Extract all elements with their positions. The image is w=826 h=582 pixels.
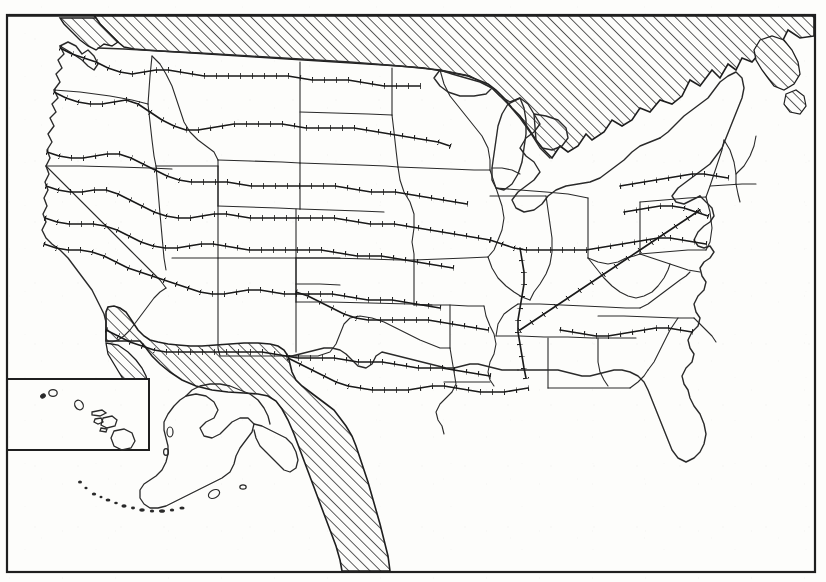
aleutian-dot (179, 506, 184, 509)
map-page (0, 0, 826, 582)
hawaii-inset-group (7, 379, 149, 450)
aleutian-dot (150, 510, 154, 513)
aleutian-dot (170, 509, 174, 512)
aleutian-dot (84, 487, 87, 490)
aleutian-dot (139, 508, 145, 512)
us-map-figure (0, 0, 826, 582)
aleutian-dot (159, 509, 165, 513)
hawaii-inset-box (7, 379, 149, 450)
aleutian-dot (121, 504, 126, 507)
aleutian-dot (78, 480, 82, 483)
aleutian-dot (92, 492, 96, 495)
aleutian-dot (114, 502, 118, 505)
aleutian-dot (106, 499, 111, 502)
aleutian-dot (131, 507, 135, 510)
aleutian-dot (100, 496, 103, 498)
